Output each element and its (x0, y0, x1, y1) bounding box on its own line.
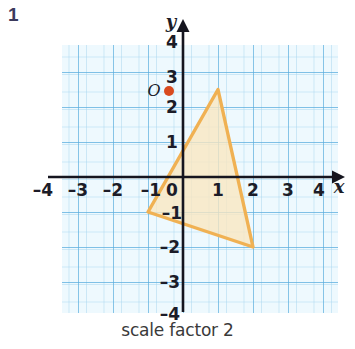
y-tick-3: 3 (166, 67, 178, 87)
x-tick-3: 3 (282, 180, 294, 200)
y-tick--3: –3 (160, 272, 180, 292)
x-tick-2: 2 (247, 180, 259, 200)
coordinate-plane-svg: –4 –3 –2 –1 0 1 2 3 4 4 3 2 1 –1 –2 –3 –… (0, 0, 355, 320)
y-tick--2: –2 (160, 237, 180, 257)
worksheet-figure: 1 (0, 0, 355, 349)
x-tick-4: 4 (313, 180, 325, 200)
x-tick-0: 0 (166, 180, 178, 200)
coordinate-plane: –4 –3 –2 –1 0 1 2 3 4 4 3 2 1 –1 –2 –3 –… (0, 0, 355, 320)
y-tick--1: –1 (162, 203, 182, 223)
figure-caption: scale factor 2 (0, 320, 355, 340)
y-tick-1: 1 (166, 132, 178, 152)
x-tick-1: 1 (212, 180, 224, 200)
y-tick-2: 2 (166, 97, 178, 117)
y-tick--4: –4 (160, 304, 181, 320)
center-of-enlargement-point (164, 86, 174, 96)
x-tick--4: –4 (33, 180, 54, 200)
x-tick--3: –3 (68, 180, 88, 200)
origin-point-label: O (147, 81, 160, 100)
y-axis-label: y (165, 11, 178, 32)
y-tick-4: 4 (166, 32, 178, 52)
x-tick--2: –2 (103, 180, 123, 200)
x-tick--1: –1 (141, 180, 161, 200)
x-axis-label: x (333, 176, 345, 197)
